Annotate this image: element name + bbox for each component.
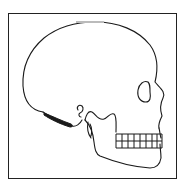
scan-artifact <box>76 21 104 23</box>
mandible-outline <box>85 120 161 168</box>
maxilla-outline <box>159 128 161 138</box>
skull-illustration <box>0 0 186 189</box>
eye-orbit <box>138 81 151 102</box>
occipital-ridge <box>44 113 72 127</box>
zygomatic-arch <box>85 112 116 132</box>
teeth <box>116 134 162 148</box>
ear-canal <box>77 105 83 117</box>
